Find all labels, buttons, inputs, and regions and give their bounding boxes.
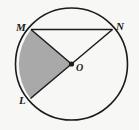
- center-label-o: O: [76, 62, 83, 73]
- geometry-figure: M N L O: [0, 0, 139, 130]
- point-label-l: L: [19, 95, 26, 106]
- shaded-sector-mol: [19, 30, 72, 99]
- center-point-dot: [69, 61, 74, 66]
- point-label-m: M: [16, 22, 26, 33]
- point-label-n: N: [116, 21, 124, 32]
